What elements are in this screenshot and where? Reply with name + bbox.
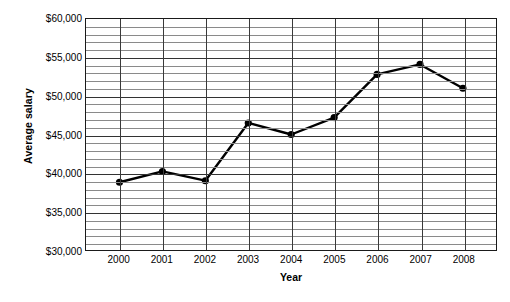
gridline-vertical	[465, 19, 466, 250]
gridline-minor-horizontal	[86, 198, 496, 199]
gridline-minor-horizontal	[86, 50, 496, 51]
gridline-major-horizontal	[86, 97, 496, 98]
gridline-minor-horizontal	[86, 159, 496, 160]
gridline-major-horizontal	[86, 58, 496, 59]
gridline-minor-horizontal	[86, 167, 496, 168]
y-axis-tick-labels: $60,000$55,000$50,000$45,000$40,000$35,0…	[24, 18, 82, 251]
gridline-minor-horizontal	[86, 35, 496, 36]
y-axis-tick-label: $50,000	[24, 90, 82, 101]
plot-area	[85, 18, 497, 251]
gridline-minor-horizontal	[86, 27, 496, 28]
gridline-minor-horizontal	[86, 89, 496, 90]
gridline-minor-horizontal	[86, 42, 496, 43]
gridline-minor-horizontal	[86, 151, 496, 152]
x-axis-title: Year	[85, 271, 497, 283]
x-axis-tick-label: 2008	[438, 254, 490, 265]
gridline-vertical	[206, 19, 207, 250]
gridline-minor-horizontal	[86, 81, 496, 82]
gridline-minor-horizontal	[86, 66, 496, 67]
gridline-vertical	[335, 19, 336, 250]
y-axis-tick-label: $45,000	[24, 129, 82, 140]
gridline-minor-horizontal	[86, 236, 496, 237]
gridline-vertical	[422, 19, 423, 250]
data-point-marker	[373, 71, 380, 78]
gridline-minor-horizontal	[86, 73, 496, 74]
x-axis-tick-labels: 200020012002200320042005200620072008	[85, 254, 497, 270]
gridline-minor-horizontal	[86, 221, 496, 222]
y-axis-tick-label: $40,000	[24, 168, 82, 179]
gridline-minor-horizontal	[86, 182, 496, 183]
y-axis-tick-label: $55,000	[24, 51, 82, 62]
gridline-minor-horizontal	[86, 244, 496, 245]
data-series-layer	[86, 19, 496, 250]
gridline-minor-horizontal	[86, 190, 496, 191]
gridline-minor-horizontal	[86, 112, 496, 113]
gridline-minor-horizontal	[86, 229, 496, 230]
gridline-major-horizontal	[86, 136, 496, 137]
gridline-major-horizontal	[86, 213, 496, 214]
gridline-minor-horizontal	[86, 120, 496, 121]
gridline-vertical	[292, 19, 293, 250]
gridline-vertical	[163, 19, 164, 250]
gridline-vertical	[120, 19, 121, 250]
gridline-minor-horizontal	[86, 128, 496, 129]
gridline-minor-horizontal	[86, 143, 496, 144]
gridline-vertical	[249, 19, 250, 250]
line-chart-figure: Average salary $60,000$55,000$50,000$45,…	[0, 0, 510, 302]
y-axis-tick-label: $35,000	[24, 207, 82, 218]
gridline-minor-horizontal	[86, 104, 496, 105]
y-axis-tick-label: $30,000	[24, 246, 82, 257]
gridline-vertical	[378, 19, 379, 250]
gridline-minor-horizontal	[86, 205, 496, 206]
y-axis-tick-label: $60,000	[24, 13, 82, 24]
gridline-major-horizontal	[86, 174, 496, 175]
